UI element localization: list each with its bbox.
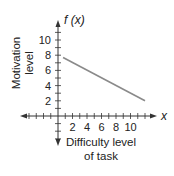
y-tick-label: 6 — [45, 64, 51, 76]
function-label: f (x) — [64, 13, 85, 27]
y-axis-down-arrow-icon — [56, 139, 61, 146]
y-tick-label: 2 — [45, 95, 51, 107]
y-axis-title-line1: Motivation — [10, 37, 22, 89]
y-axis-up-arrow-icon — [56, 20, 61, 27]
x-tick-label: 2 — [69, 121, 75, 133]
x-axis-left-arrow-icon — [20, 114, 27, 119]
x-axis-title-line2: of task — [84, 150, 118, 162]
series — [63, 57, 145, 100]
y-tick-label: 10 — [39, 34, 51, 46]
y-axis-title-line2: level — [23, 51, 35, 75]
data-line — [63, 57, 145, 100]
x-axis-symbol: x — [160, 109, 168, 123]
x-tick-label: 10 — [124, 121, 136, 133]
x-tick-label: 8 — [113, 121, 119, 133]
x-tick-label: 6 — [98, 121, 104, 133]
chart: 246810246810f (x)xDifficulty levelof tas… — [0, 0, 174, 176]
y-tick-label: 8 — [45, 49, 51, 61]
x-axis-right-arrow-icon — [150, 114, 157, 119]
labels: 246810246810f (x)xDifficulty levelof tas… — [10, 13, 168, 162]
y-tick-label: 4 — [45, 80, 51, 92]
x-tick-label: 4 — [84, 121, 90, 133]
x-axis-title-line1: Difficulty level — [66, 136, 136, 148]
